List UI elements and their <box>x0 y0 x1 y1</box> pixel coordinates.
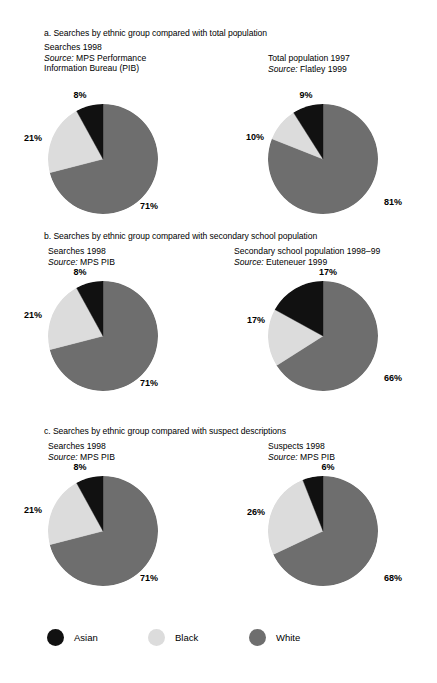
legend-item-black: Black <box>148 629 198 646</box>
pct-white: 68% <box>384 573 402 583</box>
chart-heading: Suspects 1998 <box>268 441 335 452</box>
source-word: Source: <box>268 64 298 74</box>
section-b-right-header: Secondary school population 1998–99 Sour… <box>234 246 380 267</box>
chart-source-line-2: Information Bureau (PIB) <box>44 63 146 74</box>
pie-chart <box>268 281 378 391</box>
pct-black: 21% <box>24 505 42 515</box>
pct-white: 71% <box>140 573 158 583</box>
section-c-right-header: Suspects 1998 Source: MPS PIB <box>268 441 335 462</box>
section-a-right-header: Total population 1997 Source: Flatley 19… <box>268 53 350 74</box>
legend-item-asian: Asian <box>47 629 98 646</box>
chart-heading: Total population 1997 <box>268 53 350 64</box>
pct-asian: 8% <box>73 462 86 472</box>
section-b-title: b. Searches by ethnic group compared wit… <box>44 231 317 241</box>
source-word: Source: <box>48 257 78 267</box>
figure-root: a. Searches by ethnic group compared wit… <box>0 0 437 683</box>
source-text: MPS PIB <box>78 257 115 267</box>
pct-asian: 9% <box>299 90 312 100</box>
section-b: b. Searches by ethnic group compared wit… <box>0 195 437 390</box>
chart-source-line-1: Source: MPS Performance <box>44 53 146 64</box>
chart-source-line-1: Source: Euteneuer 1999 <box>234 257 380 268</box>
source-text: Euteneuer 1999 <box>264 257 328 267</box>
pct-black: 26% <box>247 507 265 517</box>
legend-item-white: White <box>249 629 300 646</box>
source-text: Flatley 1999 <box>298 64 347 74</box>
legend-label-white: White <box>276 632 300 643</box>
source-text: MPS PIB <box>298 452 335 462</box>
chart-heading: Searches 1998 <box>48 441 115 452</box>
chart-source-line-1: Source: MPS PIB <box>268 452 335 463</box>
section-a-title: a. Searches by ethnic group compared wit… <box>44 28 267 38</box>
pct-black: 17% <box>247 315 265 325</box>
pct-black: 21% <box>24 133 42 143</box>
pct-asian: 17% <box>319 267 337 277</box>
pct-asian: 8% <box>73 267 86 277</box>
source-word: Source: <box>48 452 78 462</box>
section-a: a. Searches by ethnic group compared wit… <box>0 0 437 195</box>
pie-c-right-slices <box>268 476 378 586</box>
legend-swatch-white <box>249 629 266 646</box>
pie-chart <box>48 281 158 391</box>
pie-b-left-slices <box>48 281 158 391</box>
pie-chart <box>268 476 378 586</box>
chart-source-line-1: Source: MPS PIB <box>48 452 115 463</box>
legend-swatch-asian <box>47 629 64 646</box>
pct-black: 10% <box>246 132 264 142</box>
source-text: MPS Performance <box>74 53 147 63</box>
chart-source-line-1: Source: MPS PIB <box>48 257 115 268</box>
pie-b-right-slices <box>268 281 378 391</box>
source-word: Source: <box>234 257 264 267</box>
pie-chart <box>48 476 158 586</box>
chart-heading: Secondary school population 1998–99 <box>234 246 380 257</box>
legend-label-asian: Asian <box>74 632 98 643</box>
section-a-left-header: Searches 1998 Source: MPS Performance In… <box>44 42 146 74</box>
pct-white: 66% <box>384 373 402 383</box>
chart-heading: Searches 1998 <box>48 246 115 257</box>
source-word: Source: <box>268 452 298 462</box>
pie-c-left-slices <box>48 476 158 586</box>
pct-asian: 6% <box>321 462 334 472</box>
pct-asian: 8% <box>73 90 86 100</box>
section-c: c. Searches by ethnic group compared wit… <box>0 390 437 585</box>
chart-heading: Searches 1998 <box>44 42 146 53</box>
legend-label-black: Black <box>175 632 198 643</box>
pct-black: 21% <box>24 310 42 320</box>
pct-white: 71% <box>140 378 158 388</box>
section-c-left-header: Searches 1998 Source: MPS PIB <box>48 441 115 462</box>
legend-swatch-black <box>148 629 165 646</box>
chart-source-line-1: Source: Flatley 1999 <box>268 64 350 75</box>
source-word: Source: <box>44 53 74 63</box>
section-b-left-header: Searches 1998 Source: MPS PIB <box>48 246 115 267</box>
source-text: MPS PIB <box>78 452 115 462</box>
section-c-title: c. Searches by ethnic group compared wit… <box>44 426 286 436</box>
legend: Asian Black White <box>0 629 437 655</box>
